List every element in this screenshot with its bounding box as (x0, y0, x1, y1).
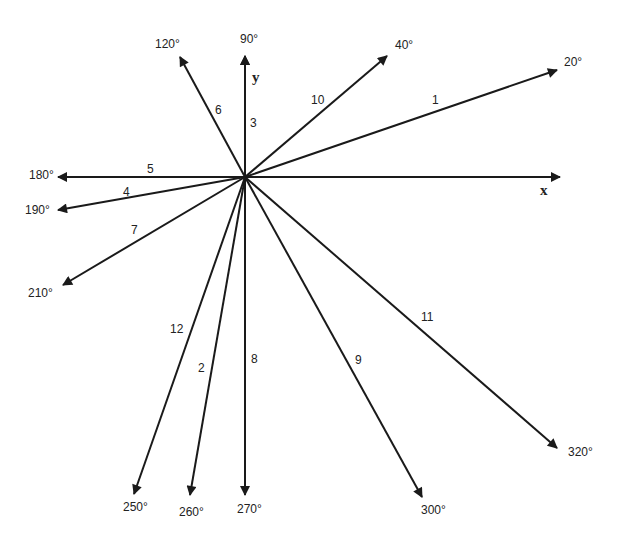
vector-number-label: 10 (311, 93, 325, 107)
vectors (58, 56, 557, 497)
angle-label: 250° (123, 500, 148, 514)
angle-label: 180° (29, 168, 54, 182)
vector-number-label: 2 (198, 361, 205, 375)
y-axis-label: y (252, 69, 260, 85)
angle-label: 260° (179, 505, 204, 519)
angle-label: 120° (155, 37, 180, 51)
vector-number-label: 1 (432, 93, 439, 107)
vector-number-label: 6 (215, 103, 222, 117)
vector-number-label: 5 (147, 162, 154, 176)
vector-number-label: 8 (251, 352, 258, 366)
angle-label: 300° (421, 503, 446, 517)
vector-2 (190, 177, 245, 495)
labels: xy120°2260°390°4190°5180°6120°7210°8270°… (25, 32, 593, 519)
vector-number-label: 7 (131, 223, 138, 237)
vector-12 (134, 177, 245, 494)
vector-1 (245, 70, 557, 177)
angle-label: 90° (240, 32, 258, 46)
angle-label: 210° (28, 286, 53, 300)
vector-diagram: xy120°2260°390°4190°5180°6120°7210°8270°… (0, 0, 623, 542)
vector-9 (245, 177, 422, 497)
vector-6 (180, 57, 245, 177)
vector-10 (245, 56, 387, 177)
angle-label: 190° (25, 203, 50, 217)
vector-number-label: 12 (170, 322, 184, 336)
x-axis-label: x (540, 182, 548, 198)
angle-label: 20° (564, 55, 582, 69)
angle-label: 320° (568, 445, 593, 459)
vector-number-label: 11 (421, 310, 434, 324)
angle-label: 40° (395, 38, 413, 52)
vector-number-label: 9 (355, 353, 362, 367)
vector-11 (245, 177, 557, 448)
vector-number-label: 3 (250, 116, 257, 130)
angle-label: 270° (237, 502, 262, 516)
vector-number-label: 4 (123, 185, 130, 199)
axes (245, 56, 560, 177)
